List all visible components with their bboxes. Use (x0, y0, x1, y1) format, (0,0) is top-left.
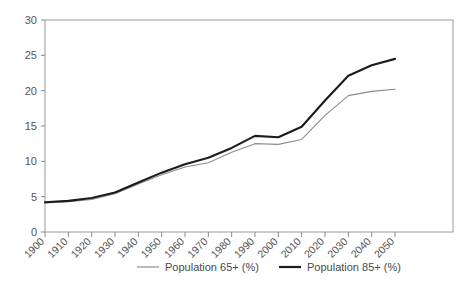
y-tick-label-5: 5 (31, 191, 37, 203)
y-tick-label-30: 30 (25, 14, 37, 26)
legend-label-85plus: Population 85+ (%) (307, 261, 401, 273)
chart-canvas: 051015202530 190019101920193019401950196… (0, 0, 475, 288)
legend-label-65plus: Population 65+ (%) (165, 261, 259, 273)
y-tick-label-10: 10 (25, 155, 37, 167)
y-tick-label-25: 25 (25, 49, 37, 61)
population-projection-chart: 051015202530 190019101920193019401950196… (0, 0, 475, 288)
y-tick-label-15: 15 (25, 120, 37, 132)
y-tick-label-20: 20 (25, 85, 37, 97)
